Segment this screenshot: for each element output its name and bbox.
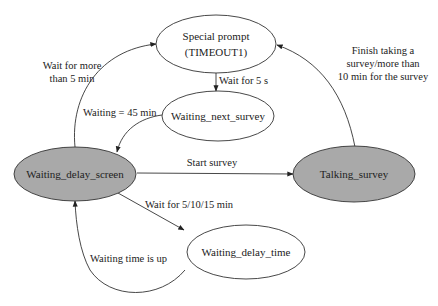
edge-next-survey-to-screen <box>117 115 162 152</box>
node-label: Special prompt <box>183 30 250 42</box>
node-special-prompt: Special prompt (TIMEOUT1) <box>156 15 276 73</box>
edge-label-screen-to-prompt: than 5 min <box>50 73 96 84</box>
node-label: (TIMEOUT1) <box>185 46 248 59</box>
edge-label-talking-to-prompt: survey/more than <box>346 58 420 69</box>
edge-label-prompt-to-next-survey: Wait for 5 s <box>219 75 268 86</box>
edge-label-screen-to-talking: Start survey <box>187 157 238 168</box>
edge-label-screen-to-delay-time: Wait for 5/10/15 min <box>145 199 234 210</box>
node-waiting-delay-screen: Waiting_delay_screen <box>14 147 136 201</box>
node-label: Waiting_delay_screen <box>26 168 124 180</box>
edge-label-talking-to-prompt: Finish taking a <box>352 45 415 56</box>
edge-label-delay-time-to-screen: Waiting time is up <box>90 253 167 264</box>
node-label: Talking_survey <box>320 168 389 180</box>
edge-delay-time-to-screen <box>75 201 185 293</box>
edge-screen-to-talking <box>137 173 293 174</box>
node-label: Waiting_delay_time <box>202 246 291 258</box>
edge-talking-to-prompt <box>277 45 355 147</box>
node-talking-survey: Talking_survey <box>293 146 415 202</box>
edge-label-talking-to-prompt: 10 min for the survey <box>338 71 429 82</box>
edge-label-next-survey-to-screen: Waiting = 45 min <box>83 107 157 118</box>
node-waiting-delay-time: Waiting_delay_time <box>187 225 305 279</box>
state-diagram: Special prompt (TIMEOUT1) Waiting_next_s… <box>0 0 438 306</box>
edge-label-screen-to-prompt: Wait for more <box>43 60 102 71</box>
node-waiting-next-survey: Waiting_next_survey <box>162 91 274 141</box>
node-label: Waiting_next_survey <box>171 110 265 122</box>
